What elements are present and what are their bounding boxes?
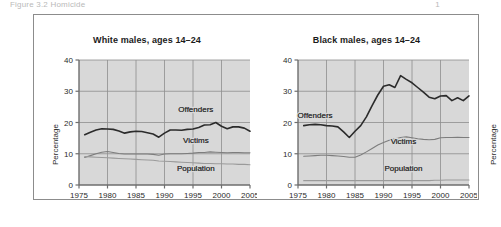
chart-plot-black-males: 0102030401975198019851990199520002005Off…: [256, 15, 477, 201]
svg-text:20: 20: [64, 119, 73, 128]
cut-off-caption: 1 Figure 3.2 Homicide: [10, 0, 440, 9]
cut-off-caption-left: Figure 3.2 Homicide: [10, 0, 85, 9]
svg-text:1990: 1990: [156, 191, 174, 200]
svg-text:1975: 1975: [70, 191, 88, 200]
svg-text:0: 0: [69, 181, 74, 190]
svg-text:2000: 2000: [213, 191, 231, 200]
svg-text:2000: 2000: [432, 191, 450, 200]
svg-text:2005: 2005: [460, 191, 477, 200]
svg-text:1980: 1980: [318, 191, 336, 200]
chart-panel-white-males: White males, ages 14–24 Percentage 01020…: [37, 15, 257, 201]
svg-text:0: 0: [288, 181, 293, 190]
svg-text:1990: 1990: [375, 191, 393, 200]
svg-text:1985: 1985: [127, 191, 145, 200]
svg-text:10: 10: [283, 150, 292, 159]
svg-text:Population: Population: [385, 164, 423, 173]
y-axis-label-black-males: Percentage: [489, 124, 498, 165]
svg-text:1995: 1995: [403, 191, 421, 200]
svg-text:30: 30: [283, 87, 292, 96]
svg-text:Population: Population: [177, 164, 215, 173]
svg-text:1975: 1975: [289, 191, 307, 200]
chart-plot-white-males: 0102030401975198019851990199520002005Off…: [37, 15, 257, 201]
svg-text:1985: 1985: [346, 191, 364, 200]
svg-text:1980: 1980: [99, 191, 117, 200]
svg-text:Offenders: Offenders: [178, 105, 213, 114]
figure-frame: White males, ages 14–24 Percentage 01020…: [33, 14, 479, 200]
svg-text:2005: 2005: [241, 191, 257, 200]
chart-panel-black-males: Black males, ages 14–24 Percentage 01020…: [256, 15, 477, 201]
svg-text:40: 40: [283, 56, 292, 65]
svg-text:40: 40: [64, 56, 73, 65]
svg-text:Offenders: Offenders: [298, 111, 333, 120]
svg-text:Victims: Victims: [183, 136, 209, 145]
cut-off-caption-right: 1: [435, 0, 440, 9]
svg-text:1995: 1995: [184, 191, 202, 200]
svg-text:10: 10: [64, 150, 73, 159]
svg-text:Victims: Victims: [391, 137, 417, 146]
svg-text:30: 30: [64, 87, 73, 96]
svg-text:20: 20: [283, 119, 292, 128]
